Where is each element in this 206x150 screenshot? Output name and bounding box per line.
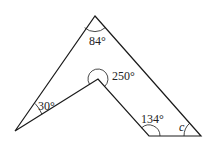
- angle-label-reflex: 250°: [112, 69, 135, 83]
- angle-label-top: 84°: [89, 34, 106, 48]
- angle-label-bottom-right: c: [179, 120, 185, 134]
- polygon-shape: [15, 16, 201, 136]
- angle-arc-bottom-right: [184, 123, 190, 136]
- angle-label-bottom-left: 134°: [141, 112, 164, 126]
- polygon-diagram: 84° 250° 30° 134° c: [0, 0, 206, 150]
- angle-arc-top: [85, 28, 106, 32]
- diagram-canvas: 84° 250° 30° 134° c: [0, 0, 206, 150]
- angle-label-left: 30°: [38, 99, 55, 113]
